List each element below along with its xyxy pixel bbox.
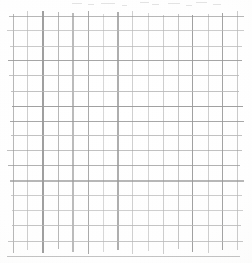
- graph-paper-scan: [0, 0, 252, 263]
- grid-lines: [0, 0, 252, 263]
- grid-line-group: [7, 11, 244, 256]
